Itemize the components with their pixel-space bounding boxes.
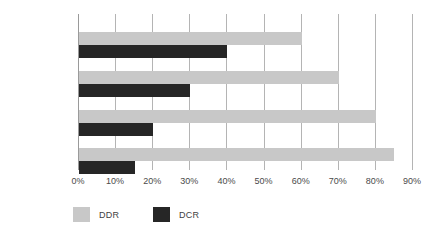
x-tick-label: 70%: [329, 176, 347, 186]
bar-ddr: [79, 148, 394, 161]
legend-label: DCR: [179, 210, 199, 220]
bar-group: [79, 110, 412, 136]
x-tick-label: 0%: [71, 176, 84, 186]
plot-area: 1º mesociclo2º mesociclo3º mesociclo4º m…: [78, 14, 412, 170]
bar-ddr: [79, 71, 339, 84]
x-tick-label: 40%: [217, 176, 235, 186]
gridline-90: [412, 14, 413, 170]
x-tick-label: 30%: [180, 176, 198, 186]
legend-label: DDR: [99, 210, 119, 220]
bar-group: [79, 148, 412, 174]
x-tick-label: 60%: [292, 176, 310, 186]
legend-swatch-dcr: [153, 207, 170, 222]
bar-group: [79, 32, 412, 58]
legend-item-ddr[interactable]: DDR: [73, 207, 119, 222]
chart-legend: DDRDCR: [73, 207, 199, 222]
bar-group: [79, 71, 412, 97]
legend-item-dcr[interactable]: DCR: [153, 207, 199, 222]
x-tick-label: 10%: [106, 176, 124, 186]
x-tick-label: 50%: [255, 176, 273, 186]
bar-dcr: [79, 84, 190, 97]
bar-dcr: [79, 161, 135, 174]
x-tick-label: 90%: [403, 176, 421, 186]
x-tick-label: 20%: [143, 176, 161, 186]
bar-dcr: [79, 45, 227, 58]
bar-chart: 1º mesociclo2º mesociclo3º mesociclo4º m…: [0, 0, 438, 241]
legend-swatch-ddr: [73, 207, 90, 222]
bar-ddr: [79, 32, 302, 45]
bar-dcr: [79, 123, 153, 136]
x-tick-label: 80%: [366, 176, 384, 186]
x-axis-tick-labels: 0%10%20%30%40%50%60%70%80%90%: [78, 176, 412, 190]
bar-ddr: [79, 110, 376, 123]
